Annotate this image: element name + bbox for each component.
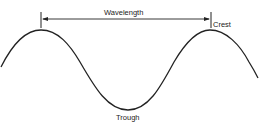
trough-label: Trough	[116, 113, 140, 122]
arrowhead-left	[42, 17, 48, 21]
wave-diagram: Wavelength Crest Trough	[0, 0, 267, 127]
arrowhead-right	[204, 17, 210, 21]
wavelength-label: Wavelength	[104, 8, 143, 17]
crest-label: Crest	[213, 20, 231, 29]
sine-wave	[1, 30, 258, 110]
